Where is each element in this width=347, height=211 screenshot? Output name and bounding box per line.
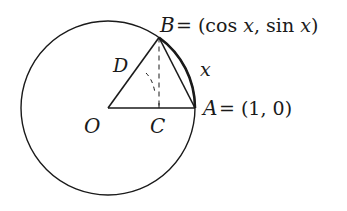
label-x-arc: x <box>200 58 211 80</box>
label-a: A <box>201 96 217 120</box>
label-c: C <box>150 114 165 138</box>
label-o: O <box>84 114 100 138</box>
label-b-coords: = (cos x, sin x) <box>176 14 318 36</box>
dashed-arc-d <box>146 73 155 93</box>
label-a-coords: = (1, 0) <box>219 97 292 119</box>
segment-ab <box>159 38 195 109</box>
label-d: D <box>112 54 128 76</box>
label-b: B <box>159 13 175 37</box>
unit-circle-diagram: B = (cos x, sin x) D x A = (1, 0) O C <box>0 0 347 211</box>
